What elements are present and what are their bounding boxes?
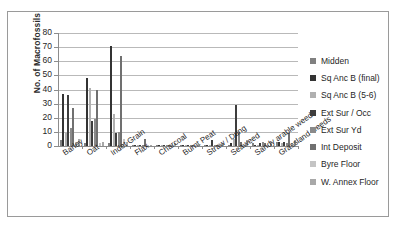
legend-swatch-icon — [310, 75, 316, 81]
y-tick-label: 60 — [26, 55, 52, 65]
bar-group — [204, 33, 225, 146]
x-tick-mark — [298, 146, 299, 149]
x-tick-mark — [250, 146, 251, 149]
legend-label: Int Deposit — [321, 142, 362, 152]
bar — [96, 90, 98, 147]
y-tick-label: 80 — [26, 27, 52, 37]
plot-area — [58, 33, 298, 146]
bar — [102, 142, 104, 146]
legend-label: Ext Sur Yd — [321, 125, 361, 135]
y-tick-label: 50 — [26, 69, 52, 79]
y-tick-label: 0 — [26, 140, 52, 150]
bar-group — [60, 33, 81, 146]
chart-frame: No. of Macrofossils 80706050403020100 Ba… — [7, 11, 389, 217]
x-tick-mark — [274, 146, 275, 149]
legend-swatch-icon — [310, 179, 316, 185]
bar-group — [108, 33, 129, 146]
legend-item: Midden — [310, 52, 398, 69]
x-tick-mark — [226, 146, 227, 149]
chart-legend: MiddenSq Anc B (final)Sq Anc B (5-6)Ext … — [310, 52, 398, 190]
legend-swatch-icon — [310, 110, 316, 116]
legend-swatch-icon — [310, 58, 316, 64]
legend-label: Ext Sur / Occ — [321, 108, 371, 118]
legend-label: Byre Floor — [321, 159, 360, 169]
legend-swatch-icon — [310, 161, 316, 167]
y-tick-label: 40 — [26, 84, 52, 94]
legend-item: W. Annex Floor — [310, 173, 398, 190]
bar — [150, 145, 152, 146]
x-tick-mark — [202, 146, 203, 149]
legend-item: Sq Anc B (5-6) — [310, 87, 398, 104]
legend-label: W. Annex Floor — [321, 177, 379, 187]
legend-swatch-icon — [310, 92, 316, 98]
x-tick-mark — [154, 146, 155, 149]
x-tick-mark — [178, 146, 179, 149]
legend-item: Ext Sur / Occ — [310, 104, 398, 121]
legend-label: Sq Anc B (5-6) — [321, 90, 376, 100]
bar — [120, 56, 122, 146]
legend-item: Ext Sur Yd — [310, 121, 398, 138]
x-tick-mark — [130, 146, 131, 149]
bar-group — [180, 33, 201, 146]
bar-group — [156, 33, 177, 146]
x-tick-mark — [82, 146, 83, 149]
bar-group — [84, 33, 105, 146]
bar-group — [252, 33, 273, 146]
legend-swatch-icon — [310, 144, 316, 150]
y-tick-label: 20 — [26, 112, 52, 122]
y-tick-label: 10 — [26, 126, 52, 136]
legend-swatch-icon — [310, 127, 316, 133]
legend-item: Byre Floor — [310, 156, 398, 173]
y-tick-label: 70 — [26, 41, 52, 51]
legend-item: Sq Anc B (final) — [310, 69, 398, 86]
legend-item: Int Deposit — [310, 138, 398, 155]
legend-label: Midden — [321, 56, 349, 66]
legend-label: Sq Anc B (final) — [321, 73, 380, 83]
y-tick-label: 30 — [26, 98, 52, 108]
x-tick-mark — [106, 146, 107, 149]
